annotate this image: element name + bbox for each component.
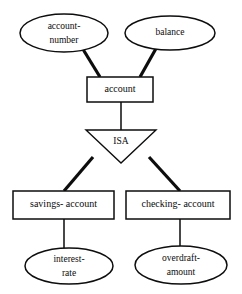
er-diagram-svg: account- number balance account ISA savi… [0, 0, 242, 294]
attribute-ellipse-account-number [20, 14, 108, 52]
attribute-label-interest-rate-line1: interest- [53, 254, 84, 264]
attribute-label-interest-rate-line2: rate [62, 268, 76, 278]
relationship-node-isa[interactable]: ISA [86, 130, 156, 163]
entity-node-checking-account[interactable]: checking- account [126, 191, 230, 219]
attribute-label-overdraft-amount-line2: amount [167, 267, 196, 277]
entity-node-account[interactable]: account [87, 77, 153, 102]
entity-node-savings-account[interactable]: savings- account [13, 191, 114, 219]
attribute-node-interest-rate[interactable]: interest- rate [25, 248, 113, 284]
isa-triangle [86, 130, 156, 163]
attribute-label-overdraft-amount-line1: overdraft- [162, 253, 200, 263]
attribute-label-balance: balance [155, 27, 184, 37]
edge-isa-to-checking-account [149, 157, 180, 191]
isa-label: ISA [113, 136, 128, 146]
attribute-node-account-number[interactable]: account- number [20, 14, 108, 52]
er-diagram-canvas: account- number balance account ISA savi… [0, 0, 242, 294]
attribute-node-balance[interactable]: balance [125, 16, 215, 50]
entity-label-checking-account: checking- account [141, 198, 214, 209]
attribute-label-account-number-line1: account- [48, 21, 81, 31]
attribute-node-overdraft-amount[interactable]: overdraft- amount [135, 246, 227, 284]
entity-label-savings-account: savings- account [30, 198, 97, 209]
attribute-label-account-number-line2: number [49, 35, 79, 45]
attribute-ellipse-overdraft-amount [135, 246, 227, 284]
entity-label-account: account [104, 83, 135, 94]
edge-isa-to-savings-account [64, 157, 93, 191]
